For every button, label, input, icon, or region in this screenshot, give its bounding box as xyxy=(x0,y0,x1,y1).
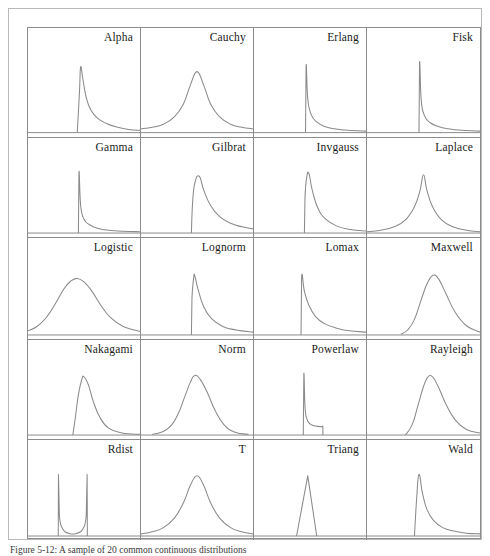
distribution-cell: Nakagami xyxy=(28,340,141,440)
distribution-plot xyxy=(367,238,480,339)
distribution-cell: Gamma xyxy=(28,138,141,238)
pdf-curve xyxy=(141,476,253,534)
distribution-cell: Rayleigh xyxy=(367,340,480,440)
distribution-grid: AlphaCauchyErlangFiskGammaGilbratInvgaus… xyxy=(27,27,481,539)
distribution-plot xyxy=(141,440,253,540)
pdf-curve xyxy=(405,375,480,435)
pdf-curve xyxy=(191,274,253,335)
distribution-plot xyxy=(28,340,140,439)
distribution-plot xyxy=(254,340,366,439)
pdf-curve xyxy=(401,275,480,334)
distribution-plot xyxy=(254,238,366,339)
pdf-curve xyxy=(306,64,366,132)
distribution-cell: Logistic xyxy=(28,238,141,340)
pdf-curve xyxy=(301,274,366,335)
distribution-plot xyxy=(367,440,480,540)
distribution-plot xyxy=(28,440,140,540)
distribution-plot xyxy=(141,238,253,339)
distribution-cell: Laplace xyxy=(367,138,480,238)
distribution-cell: Fisk xyxy=(367,28,480,138)
pdf-curve xyxy=(78,171,140,233)
pdf-curve xyxy=(414,474,480,536)
pdf-curve xyxy=(58,474,87,536)
distribution-cell: Lognorm xyxy=(141,238,254,340)
distribution-plot xyxy=(254,28,366,137)
figure-outer-border: AlphaCauchyErlangFiskGammaGilbratInvgaus… xyxy=(8,8,482,540)
distribution-cell: Cauchy xyxy=(141,28,254,138)
distribution-cell: Triang xyxy=(254,440,367,540)
distribution-cell: Norm xyxy=(141,340,254,440)
distribution-cell: Lomax xyxy=(254,238,367,340)
distribution-cell: Rdist xyxy=(28,440,141,540)
distribution-plot xyxy=(141,138,253,237)
distribution-plot xyxy=(141,340,253,439)
distribution-plot xyxy=(141,28,253,137)
pdf-curve xyxy=(77,67,140,133)
distribution-plot xyxy=(28,238,140,339)
distribution-cell: Invgauss xyxy=(254,138,367,238)
distribution-cell: Alpha xyxy=(28,28,141,138)
pdf-curve xyxy=(303,373,323,435)
distribution-cell: Wald xyxy=(367,440,480,540)
pdf-curve xyxy=(419,61,480,132)
pdf-curve xyxy=(152,375,248,434)
pdf-curve xyxy=(28,278,140,331)
distribution-plot xyxy=(254,138,366,237)
figure-caption: Figure 5-12: A sample of 20 common conti… xyxy=(10,545,480,556)
distribution-plot xyxy=(367,340,480,439)
distribution-gallery-figure: AlphaCauchyErlangFiskGammaGilbratInvgaus… xyxy=(0,0,490,556)
pdf-curve xyxy=(297,476,317,536)
distribution-plot xyxy=(254,440,366,540)
pdf-curve xyxy=(191,176,253,233)
distribution-cell: T xyxy=(141,440,254,540)
distribution-cell: Powerlaw xyxy=(254,340,367,440)
distribution-plot xyxy=(367,138,480,237)
distribution-plot xyxy=(28,28,140,137)
pdf-curve xyxy=(367,175,480,232)
distribution-cell: Gilbrat xyxy=(141,138,254,238)
pdf-curve xyxy=(73,376,140,435)
distribution-cell: Maxwell xyxy=(367,238,480,340)
pdf-curve xyxy=(304,172,366,233)
distribution-cell: Erlang xyxy=(254,28,367,138)
distribution-plot xyxy=(367,28,480,137)
pdf-curve xyxy=(141,72,253,129)
distribution-plot xyxy=(28,138,140,237)
